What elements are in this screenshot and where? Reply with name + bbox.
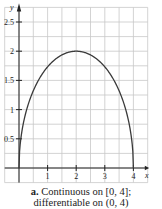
svg-text:1: 1: [10, 106, 14, 115]
caption-line-2: differentiable on (0, 4): [0, 197, 162, 208]
axis-ticks: 12340.511.522.5: [4, 18, 135, 181]
svg-text:2.5: 2.5: [4, 18, 14, 27]
svg-text:0.5: 0.5: [4, 135, 14, 144]
chart-plot: 12340.511.522.5 x y: [0, 0, 162, 184]
svg-text:1: 1: [46, 172, 50, 181]
svg-text:4: 4: [131, 172, 135, 181]
grid-lines: [5, 7, 148, 182]
y-axis-label: y: [9, 3, 14, 12]
caption-text-2: differentiable on (0, 4): [34, 197, 129, 208]
svg-text:2: 2: [74, 172, 78, 181]
svg-text:3: 3: [103, 172, 107, 181]
svg-text:1.5: 1.5: [4, 76, 14, 85]
caption-text-1: Continuous on [0, 4];: [41, 186, 131, 197]
caption-line-1: a. Continuous on [0, 4];: [0, 186, 162, 197]
axes: [5, 3, 149, 182]
x-axis-label: x: [144, 171, 149, 180]
caption-label: a.: [31, 186, 39, 197]
svg-text:2: 2: [10, 47, 14, 56]
